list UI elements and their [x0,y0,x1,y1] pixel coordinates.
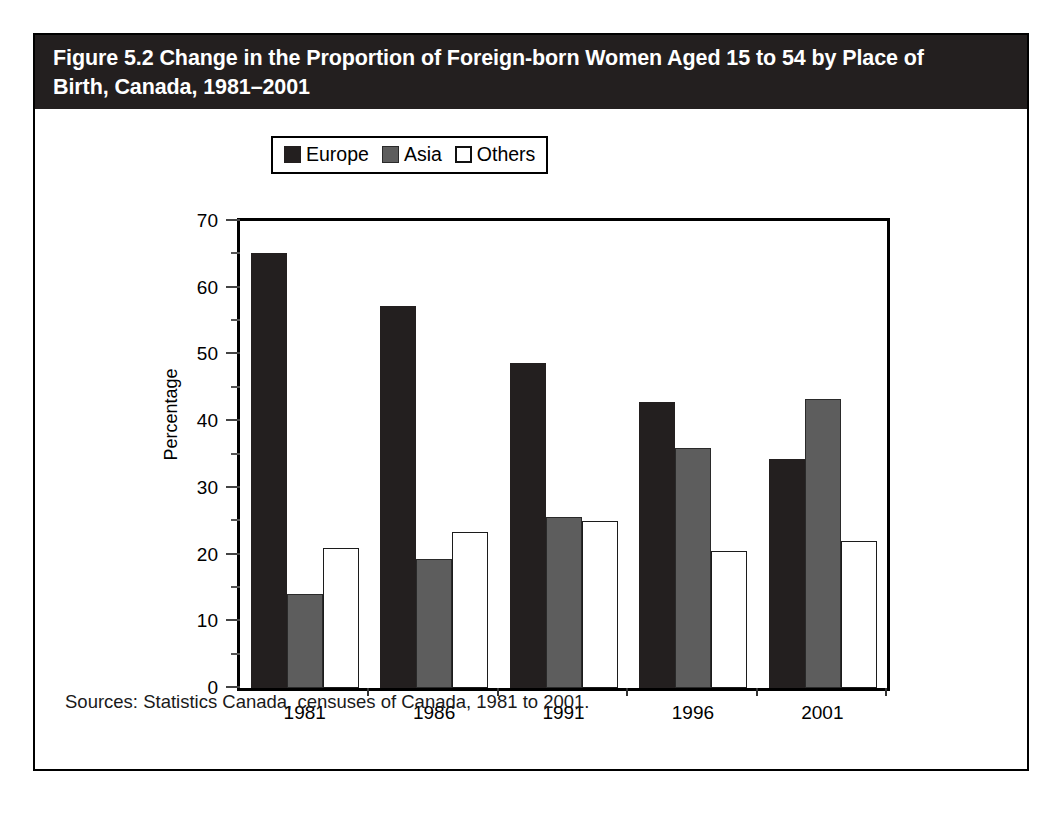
y-tick-label: 40 [197,410,218,432]
bar-europe-1996 [639,402,675,688]
bar-group-2001: 2001 [758,221,887,688]
y-tick-major [226,419,240,421]
y-axis-label: Percentage [161,315,182,515]
y-tick-minor [231,653,240,655]
legend-item-europe: Europe [284,143,369,166]
y-tick-minor [231,386,240,388]
legend-label-others: Others [477,143,536,166]
chart-area: Percentage 19811986199119962001 01020304… [35,109,1027,769]
bar-asia-1981 [287,594,323,688]
plot-inner: 19811986199119962001 010203040506070 [240,221,887,688]
y-tick-major [226,219,240,221]
y-tick-minor [231,519,240,521]
bar-europe-2001 [769,459,805,688]
y-tick-major [226,619,240,621]
y-tick-major [226,286,240,288]
bar-asia-1986 [416,559,452,688]
bar-asia-1991 [546,517,582,688]
y-tick-major [226,553,240,555]
bar-asia-2001 [805,399,841,688]
plot-axes: 19811986199119962001 010203040506070 [237,218,890,691]
bar-europe-1981 [251,253,287,688]
figure-page: Figure 5.2 Change in the Proportion of F… [0,0,1063,827]
bar-europe-1991 [510,363,546,688]
bar-others-1981 [323,548,359,688]
legend-swatch-others-icon [455,146,472,163]
legend-label-asia: Asia [404,143,442,166]
y-tick-major [226,352,240,354]
bar-groups: 19811986199119962001 [240,221,887,688]
legend-item-others: Others [455,143,536,166]
x-tick [756,688,758,696]
y-tick-label: 30 [197,477,218,499]
bar-group-1991: 1991 [499,221,628,688]
legend-label-europe: Europe [306,143,369,166]
y-tick-major [226,486,240,488]
figure-title-banner: Figure 5.2 Change in the Proportion of F… [35,35,1027,109]
bar-others-1996 [711,551,747,688]
legend-swatch-asia-icon [382,146,399,163]
y-tick-label: 60 [197,277,218,299]
y-tick-minor [231,453,240,455]
page-title: Figure 5.2 Change in the Proportion of F… [53,44,1009,102]
bar-others-1991 [582,521,618,688]
y-tick-major [226,686,240,688]
y-tick-minor [231,252,240,254]
y-tick-minor [231,319,240,321]
source-note: Sources: Statistics Canada, censuses of … [65,691,590,713]
x-tick-label-1996: 1996 [628,702,758,724]
bar-group-1981: 1981 [240,221,369,688]
bar-group-1986: 1986 [369,221,498,688]
y-tick-label: 50 [197,343,218,365]
legend-item-asia: Asia [382,143,442,166]
bar-others-2001 [841,541,877,688]
y-tick-label: 70 [197,210,218,232]
x-tick [626,688,628,696]
y-tick-label: 10 [197,610,218,632]
y-tick-label: 20 [197,544,218,566]
legend-swatch-europe-icon [284,146,301,163]
chart-legend: Europe Asia Others [271,136,548,174]
x-tick-label-2001: 2001 [757,702,887,724]
bar-europe-1986 [380,306,416,688]
bar-others-1986 [452,532,488,688]
figure-container: Figure 5.2 Change in the Proportion of F… [33,33,1029,771]
bar-group-1996: 1996 [628,221,757,688]
y-tick-minor [231,586,240,588]
bar-asia-1996 [675,448,711,688]
x-tick [885,688,887,696]
